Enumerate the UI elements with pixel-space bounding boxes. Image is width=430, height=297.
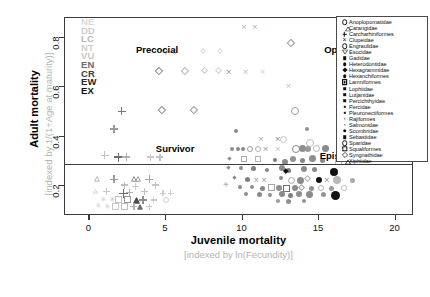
data-point	[238, 185, 242, 189]
data-point	[288, 177, 295, 184]
legend-item-label: Xiphiidae	[349, 158, 372, 164]
data-point: ×	[242, 68, 249, 75]
data-point	[241, 147, 245, 151]
data-point	[126, 189, 133, 196]
data-point	[305, 127, 309, 131]
data-point	[151, 197, 157, 203]
data-point	[135, 176, 141, 182]
data-point	[280, 136, 287, 143]
data-point	[309, 186, 314, 191]
data-point	[251, 166, 256, 171]
data-point	[244, 192, 248, 196]
triangle-icon	[340, 158, 349, 164]
data-point	[268, 193, 272, 197]
x-tick	[88, 215, 89, 220]
data-point	[146, 204, 152, 210]
iucn-code-ex: EX	[81, 87, 97, 96]
y-tick-label: 0.2	[50, 185, 61, 215]
x-tick	[318, 215, 319, 220]
data-point	[286, 199, 291, 204]
data-point	[158, 106, 166, 114]
data-point	[232, 176, 236, 180]
data-point	[300, 158, 305, 163]
data-point	[257, 192, 262, 197]
data-point	[137, 204, 143, 210]
iucn-status-scale: NEDDLCNTVUENCREWEX	[81, 18, 97, 95]
chart-root: Adult mortality [indexed by 1/(1+Age at …	[0, 0, 430, 297]
data-point	[313, 145, 320, 152]
x-axis-title: Juvenile mortality	[64, 234, 413, 246]
data-point	[279, 191, 285, 197]
data-point	[341, 185, 347, 191]
data-point	[288, 193, 293, 198]
data-point	[292, 185, 298, 191]
quadrant-label-precocial: Precocial	[136, 44, 178, 55]
data-point	[302, 199, 306, 203]
data-point	[94, 176, 100, 182]
data-point	[245, 177, 250, 182]
data-point	[290, 156, 296, 162]
data-point: ×	[225, 68, 232, 75]
data-point	[312, 167, 317, 172]
data-point	[93, 189, 98, 194]
x-tick	[395, 215, 396, 220]
data-point	[250, 185, 254, 189]
data-point	[255, 146, 261, 152]
y-tick-label: 0.6	[50, 86, 61, 116]
data-point: ✳	[104, 203, 111, 210]
data-point	[160, 190, 166, 196]
data-point	[236, 147, 240, 151]
data-point	[321, 192, 326, 197]
data-point	[279, 176, 283, 180]
data-point	[331, 191, 340, 200]
data-point	[201, 67, 208, 74]
data-point	[268, 184, 275, 191]
data-point	[298, 184, 305, 191]
data-point	[118, 107, 126, 115]
data-point	[260, 186, 265, 191]
data-point: ×	[241, 23, 248, 30]
data-point	[226, 166, 230, 170]
legend-item[interactable]: Xiphiidae	[340, 158, 425, 164]
data-point	[121, 182, 128, 189]
quadrant-label-survivor: Survivor	[156, 143, 195, 154]
data-point	[110, 175, 118, 183]
data-point	[141, 188, 148, 195]
data-point	[301, 166, 307, 172]
data-point	[304, 175, 311, 182]
data-point	[163, 197, 169, 203]
data-point	[333, 176, 341, 184]
data-point: ×	[251, 23, 258, 30]
data-point	[265, 168, 269, 172]
data-point	[217, 48, 223, 54]
data-point	[247, 146, 253, 152]
data-point	[112, 203, 119, 210]
y-axis-subtitle-text: [indexed by 1/(1+Age at maturity)]	[43, 53, 54, 196]
data-point	[255, 156, 261, 162]
data-point	[147, 154, 154, 161]
data-point	[350, 178, 355, 183]
data-point	[228, 156, 232, 160]
x-tick-label: 10	[222, 222, 262, 233]
data-point	[152, 182, 159, 189]
data-point	[156, 154, 163, 161]
data-point	[230, 147, 234, 151]
data-point: ×	[253, 176, 260, 183]
data-point	[276, 199, 280, 203]
x-axis-subtitle: [indexed by ln(Fecundity)]	[64, 249, 413, 260]
x-tick-label: 5	[145, 222, 185, 233]
data-point: ✳	[223, 182, 229, 188]
data-point	[155, 67, 163, 75]
data-point	[296, 191, 302, 197]
data-point	[215, 67, 222, 74]
data-point	[200, 48, 206, 54]
data-point	[329, 186, 334, 191]
data-point	[283, 185, 290, 192]
data-point: ×	[257, 135, 264, 142]
data-point	[286, 39, 294, 47]
data-point	[101, 151, 109, 159]
y-tick-label: 0.4	[50, 135, 61, 165]
data-point: ×	[274, 145, 281, 152]
x-tick-label: 15	[298, 222, 338, 233]
data-point: ×	[259, 68, 266, 75]
